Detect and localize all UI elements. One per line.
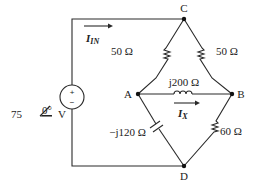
label-L-AB: j200 Ω — [168, 76, 199, 88]
circuit-diagram: + − 75 0° V 50 Ω 50 Ω j200 Ω −j120 Ω 60 … — [0, 0, 255, 193]
source-magnitude: 75 — [11, 108, 23, 120]
current-X: IX — [174, 101, 200, 122]
node-B — [230, 92, 234, 96]
node-label-D: D — [180, 170, 188, 182]
label-C-AD: −j120 Ω — [109, 126, 146, 138]
arrow-icon — [195, 101, 200, 106]
node-D — [182, 164, 186, 168]
node-A — [136, 92, 140, 96]
label-R-CA: 50 Ω — [111, 45, 133, 57]
node-label-A: A — [124, 88, 132, 100]
source-unit: V — [58, 108, 66, 120]
inductor-AB — [138, 91, 232, 94]
label-R-CB: 50 Ω — [216, 45, 238, 57]
source-label: 75 0° V — [11, 104, 66, 120]
current-X-label: IX — [177, 107, 188, 121]
plus-sign: + — [70, 88, 75, 97]
current-IN-label: IIN — [85, 32, 100, 46]
node-label-C: C — [180, 2, 187, 14]
label-R-BD: 60 Ω — [220, 125, 242, 137]
voltage-source: + − — [60, 85, 84, 109]
current-IN: IIN — [84, 24, 113, 47]
node-label-B: B — [237, 88, 244, 100]
node-C — [182, 17, 186, 21]
minus-sign: − — [70, 98, 75, 107]
arrow-icon — [108, 24, 113, 29]
source-angle: 0° — [42, 104, 52, 116]
